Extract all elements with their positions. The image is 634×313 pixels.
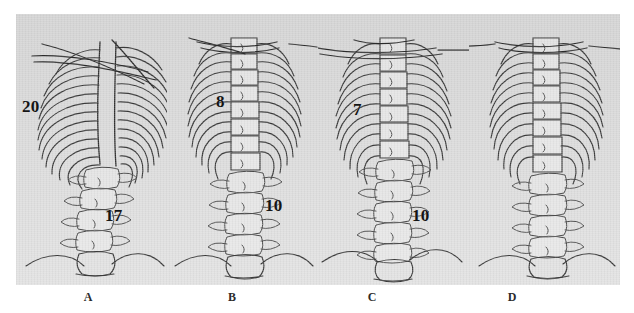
panel-a-thoracic-measure: 20 — [22, 98, 39, 115]
radiograph-plate: 20 17 8 10 7 10 — [16, 14, 620, 285]
panel-a-lumbar-measure: 17 — [105, 207, 122, 224]
panel-letter-a: A — [68, 290, 108, 305]
panel-a-drawing — [16, 14, 167, 285]
panel-c-thoracic-measure: 7 — [353, 101, 362, 118]
spine-illustration-d — [469, 14, 620, 285]
panel-c-drawing — [318, 14, 469, 285]
panel-letter-c: C — [352, 290, 392, 305]
spine-illustration-b — [167, 14, 318, 285]
panel-b-thoracic-measure: 8 — [216, 93, 225, 110]
figure-root: 20 17 8 10 7 10 A B C D — [0, 0, 634, 313]
panel-letter-d: D — [492, 290, 532, 305]
panel-b-drawing — [167, 14, 318, 285]
panel-d-drawing — [469, 14, 620, 285]
spine-illustration-c — [318, 14, 469, 285]
panel-letter-b: B — [212, 290, 252, 305]
spine-illustration-a — [16, 14, 167, 285]
panel-b-lumbar-measure: 10 — [265, 197, 282, 214]
panel-c-lumbar-measure: 10 — [412, 207, 429, 224]
